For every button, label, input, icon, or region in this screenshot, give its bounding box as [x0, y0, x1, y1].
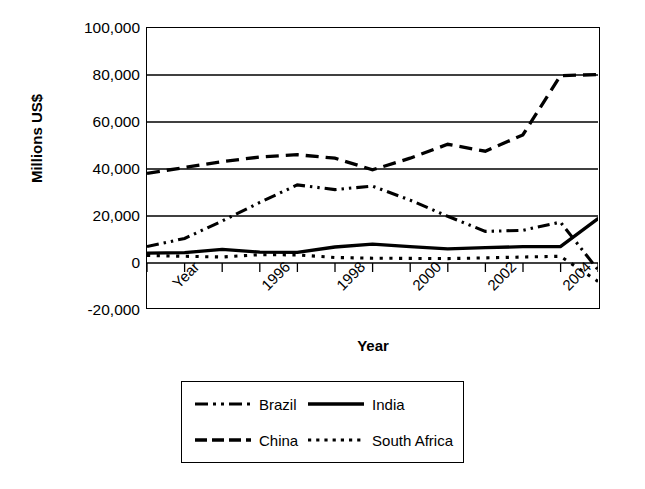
legend-swatch-dotted-icon [307, 434, 365, 446]
series-line-china [147, 75, 598, 174]
x-axis-ticks [147, 263, 598, 272]
legend-label: India [372, 397, 405, 412]
legend-swatch-dash-dot-dot-icon [194, 398, 252, 410]
y-tick-label: 80,000 [54, 67, 140, 82]
legend-label: South Africa [372, 433, 453, 448]
legend-item-south-africa: South Africa [307, 433, 453, 448]
legend-swatch-solid-icon [307, 398, 365, 410]
y-tick-label: 100,000 [54, 20, 140, 35]
plot-area [146, 27, 600, 309]
y-axis-tick-labels: 100,000 80,000 60,000 40,000 20,000 0 -2… [52, 0, 140, 489]
y-tick-label: -20,000 [54, 302, 140, 317]
y-tick-label: 40,000 [54, 161, 140, 176]
y-axis-title: Millions US$ [28, 59, 45, 219]
x-axis-title: Year [146, 337, 600, 354]
legend-item-china: China [194, 433, 307, 448]
legend-item-brazil: Brazil [194, 397, 307, 412]
legend-label: Brazil [259, 397, 297, 412]
plot-svg [147, 28, 598, 307]
legend-label: China [259, 433, 298, 448]
legend-item-india: India [307, 397, 453, 412]
y-tick-label: 60,000 [54, 114, 140, 129]
y-tick-label: 20,000 [54, 208, 140, 223]
legend-swatch-long-dash-icon [194, 434, 252, 446]
y-tick-label: 0 [54, 255, 140, 270]
chart-legend: Brazil India China S [181, 381, 464, 463]
chart-figure: Millions US$ 100,000 80,000 60,000 40,00… [0, 0, 645, 489]
